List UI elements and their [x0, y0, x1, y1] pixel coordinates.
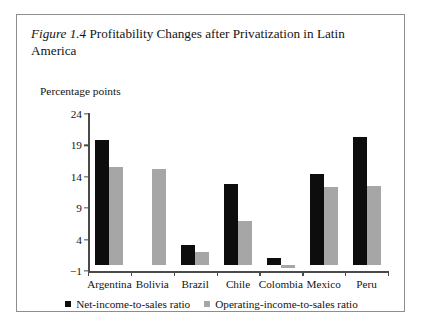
bar-operating-income [195, 252, 209, 265]
x-axis-category-label: Chile [226, 278, 250, 290]
bar-operating-income [324, 187, 338, 264]
x-axis-line [88, 271, 388, 273]
legend-swatch-net-icon [65, 301, 71, 307]
y-axis-tick-mark [84, 239, 88, 240]
y-axis-tick-label: 19 [71, 139, 82, 151]
bar-net-income [95, 140, 109, 265]
y-axis-tick-label: 4 [76, 234, 82, 246]
legend-entry-operating-income: Operating-income-to-sales ratio [204, 298, 358, 310]
x-axis-category-label: Mexico [307, 278, 341, 290]
y-axis-tick-label: 14 [71, 171, 82, 183]
y-axis-line [88, 113, 90, 273]
bar-net-income [181, 245, 195, 264]
x-axis-tick-mark [302, 271, 303, 276]
y-axis-tick-mark [84, 176, 88, 177]
x-axis-category-label: Bolivia [136, 278, 169, 290]
bar-operating-income [281, 265, 295, 268]
x-axis-tick-mark [345, 271, 346, 276]
legend-entry-net-income: Net-income-to-sales ratio [65, 298, 190, 310]
bar-net-income [267, 258, 281, 264]
x-axis-tick-mark [88, 271, 89, 276]
y-axis-title: Percentage points [40, 85, 121, 97]
y-axis-tick-mark [84, 113, 88, 114]
y-axis-tick-label: −1 [70, 265, 82, 277]
x-axis-category-label: Peru [356, 278, 377, 290]
x-axis-tick-mark [131, 271, 132, 276]
y-axis-tick-label: 9 [76, 202, 82, 214]
chart-legend: Net-income-to-sales ratio Operating-inco… [17, 298, 406, 310]
x-axis-category-label: Argentina [87, 278, 132, 290]
legend-swatch-operating-icon [204, 301, 210, 307]
figure-caption: Figure 1.4 Profitability Changes after P… [31, 25, 379, 59]
x-axis-category-label: Brazil [181, 278, 208, 290]
bar-operating-income [109, 167, 123, 264]
y-axis-tick-label: 24 [71, 108, 82, 120]
x-axis-category-label: Colombia [259, 278, 303, 290]
bar-operating-income [367, 186, 381, 265]
x-axis-tick-mark [388, 271, 389, 276]
legend-label-net: Net-income-to-sales ratio [76, 298, 190, 310]
x-axis-tick-mark [174, 271, 175, 276]
bar-net-income [224, 184, 238, 264]
y-axis-tick-mark [84, 145, 88, 146]
bar-operating-income [152, 169, 166, 264]
figure-frame: Figure 1.4 Profitability Changes after P… [16, 14, 405, 312]
bar-operating-income [238, 221, 252, 265]
bar-net-income [353, 137, 367, 265]
legend-label-operating: Operating-income-to-sales ratio [215, 298, 358, 310]
figure-number: Figure 1.4 [31, 26, 86, 41]
x-axis-tick-mark [217, 271, 218, 276]
x-axis-tick-mark [259, 271, 260, 276]
bar-net-income [310, 174, 324, 265]
y-axis-tick-mark [84, 208, 88, 209]
